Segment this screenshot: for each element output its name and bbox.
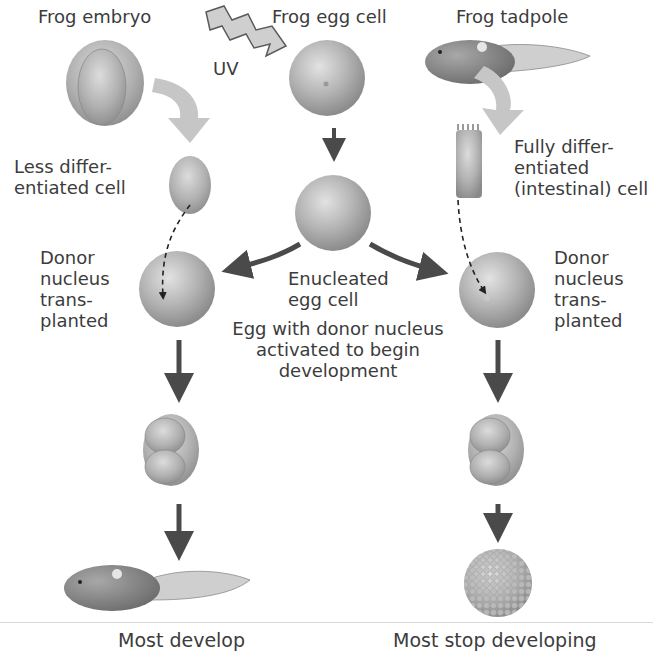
- arrow-enucleated-to-right: [370, 244, 434, 270]
- left-cleavage-embryo: [143, 414, 199, 486]
- arrow-enucleated-to-left: [236, 244, 300, 268]
- caption-left-outcome: Most develop: [118, 629, 245, 651]
- label-right-donor-transplanted: Donor nucleus trans- planted: [554, 247, 624, 331]
- left-recipient-egg: [139, 251, 215, 327]
- right-cleavage-embryo: [468, 414, 524, 486]
- divider-line: [0, 622, 653, 623]
- frog-tadpole-top: [425, 40, 590, 84]
- label-less-differentiated: Less differ- entiated cell: [14, 156, 126, 198]
- label-enucleated-egg: Enucleated egg cell: [288, 268, 389, 310]
- light-arrow-right: [474, 66, 524, 135]
- label-frog-tadpole: Frog tadpole: [456, 6, 568, 27]
- light-arrow-left: [152, 78, 210, 143]
- enucleated-egg-cell: [295, 175, 371, 251]
- outcome-tadpole: [64, 565, 250, 611]
- caption-right-outcome: Most stop developing: [393, 629, 597, 651]
- outcome-blastula: [464, 549, 532, 617]
- label-uv: UV: [213, 58, 239, 79]
- frog-egg-cell: [289, 40, 365, 116]
- label-left-donor-transplanted: Donor nucleus trans- planted: [40, 247, 110, 331]
- frog-embryo-illustration: [66, 40, 144, 126]
- intestinal-cell: [456, 124, 482, 198]
- label-frog-embryo: Frog embryo: [38, 6, 151, 27]
- label-activated-egg: Egg with donor nucleus activated to begi…: [228, 318, 448, 381]
- label-fully-differentiated: Fully differ- entiated (intestinal) cell: [514, 136, 648, 199]
- label-frog-egg-cell: Frog egg cell: [272, 6, 387, 27]
